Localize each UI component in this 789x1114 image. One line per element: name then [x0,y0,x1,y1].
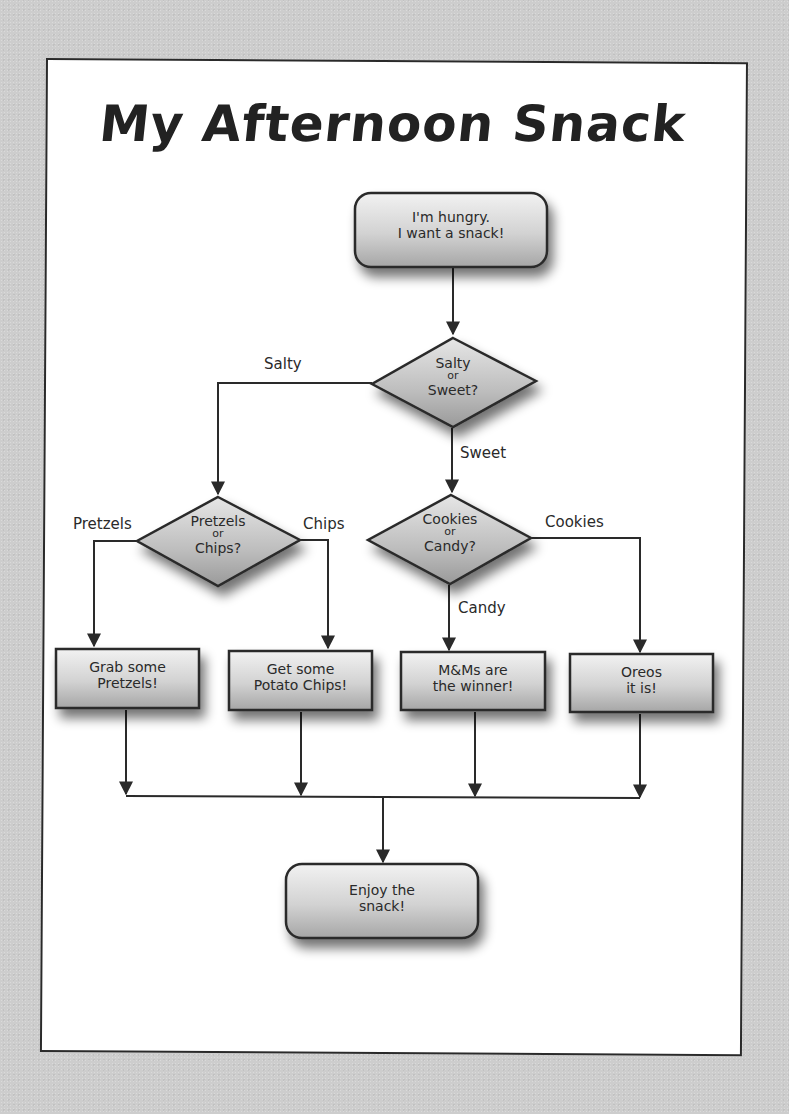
chips-node: Get some Potato Chips! [229,661,372,693]
salty-sweet-decision: Salty or Sweet? [393,355,513,398]
cookies-candy-decision: Cookies or Candy? [390,511,510,554]
oreos-node: Oreos it is! [570,664,713,696]
end-line2: snack! [359,898,405,914]
end-line1: Enjoy the [349,882,415,898]
salty-sweet-or: or [393,371,513,381]
salty-sweet-line2: Sweet? [428,382,478,398]
cookies-candy-or: or [390,527,510,537]
edge-label-candy: Candy [458,600,506,617]
edge-salty [218,383,372,494]
chips-line1: Get some [267,661,335,677]
node-shapes [56,193,713,938]
edge-label-sweet: Sweet [460,445,506,462]
pretzels-chips-decision: Pretzels or Chips? [158,513,278,556]
mms-line2: the winner! [433,678,514,694]
edge-chips [300,540,328,648]
start-line2: I want a snack! [398,225,505,241]
pretzels-chips-or: or [158,529,278,539]
pretzels-line1: Grab some [89,659,166,675]
mms-line1: M&Ms are [438,662,507,678]
end-node: Enjoy the snack! [286,882,478,914]
pretzels-chips-line2: Chips? [195,540,241,556]
cookies-candy-line2: Candy? [424,538,476,554]
mms-node: M&Ms are the winner! [401,662,545,694]
chips-line2: Potato Chips! [254,677,347,693]
pretzels-node: Grab some Pretzels! [56,659,199,691]
start-node: I'm hungry. I want a snack! [355,209,547,241]
edge-label-chips: Chips [303,516,344,533]
edge-cookies [531,538,640,652]
oreos-line2: it is! [626,680,657,696]
edge-label-pretzels: Pretzels [73,516,132,533]
edge-pretzels [94,541,137,646]
connectors [94,268,640,862]
pretzels-line2: Pretzels! [97,675,158,691]
edge-label-salty: Salty [264,356,302,373]
oreos-line1: Oreos [621,664,662,680]
start-line1: I'm hungry. [412,209,490,225]
edge-label-cookies: Cookies [545,514,604,531]
